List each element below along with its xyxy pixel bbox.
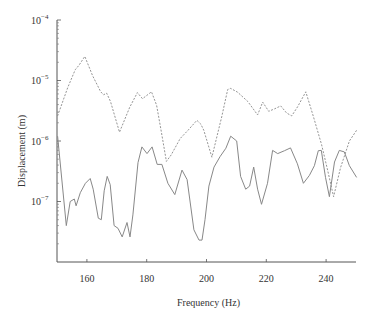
y-tick-label: 10−4 — [31, 13, 49, 26]
x-axis-title: Frequency (Hz) — [177, 297, 240, 309]
series-lines — [58, 56, 357, 240]
x-ticks: 160180200220240 — [79, 259, 333, 284]
displacement-frequency-chart: 10−710−610−510−4 160180200220240 Frequen… — [0, 0, 369, 309]
x-tick-label: 220 — [259, 273, 274, 284]
x-tick-label: 240 — [319, 273, 334, 284]
axes — [57, 20, 356, 262]
y-tick-label: 10−5 — [31, 73, 49, 86]
x-tick-label: 200 — [199, 273, 214, 284]
y-tick-label: 10−6 — [31, 134, 49, 147]
y-axis-title: Displacement (m) — [16, 115, 28, 187]
series-solid-line — [58, 136, 357, 240]
x-tick-label: 160 — [79, 273, 94, 284]
x-tick-label: 180 — [139, 273, 154, 284]
y-tick-label: 10−7 — [31, 194, 49, 207]
series-dashed-line — [58, 56, 357, 196]
